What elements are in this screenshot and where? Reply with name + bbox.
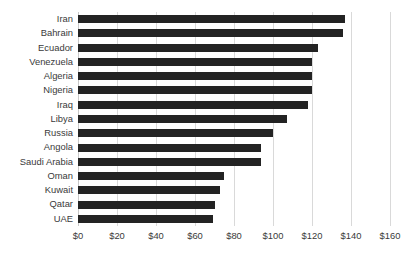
bar-row: Saudi Arabia bbox=[78, 155, 390, 169]
bar-row: Bahrain bbox=[78, 26, 390, 40]
plot-area: IranBahrainEcuadorVenezuelaAlgeriaNigeri… bbox=[78, 12, 390, 226]
bar-angola bbox=[78, 144, 261, 152]
bar-row: Algeria bbox=[78, 69, 390, 83]
bar-row: Iraq bbox=[78, 98, 390, 112]
category-label-ecuador: Ecuador bbox=[38, 41, 73, 55]
bar-iran bbox=[78, 15, 345, 23]
category-label-russia: Russia bbox=[44, 126, 73, 140]
category-label-oman: Oman bbox=[47, 169, 73, 183]
category-label-uae: UAE bbox=[54, 212, 73, 226]
x-axis-tick-labels: $0$20$40$60$80$100$120$140$160 bbox=[78, 230, 390, 246]
bar-row: Nigeria bbox=[78, 83, 390, 97]
bar-ecuador bbox=[78, 44, 318, 52]
bar-rows: IranBahrainEcuadorVenezuelaAlgeriaNigeri… bbox=[78, 12, 390, 226]
category-label-iraq: Iraq bbox=[57, 98, 73, 112]
bar-row: Oman bbox=[78, 169, 390, 183]
x-tick-label: $140 bbox=[341, 230, 362, 241]
x-tick-label: $100 bbox=[263, 230, 284, 241]
category-label-angola: Angola bbox=[44, 140, 73, 154]
x-tick-label: $40 bbox=[148, 230, 164, 241]
bar-row: Qatar bbox=[78, 197, 390, 211]
bar-algeria bbox=[78, 72, 312, 80]
x-tick-label: $20 bbox=[109, 230, 125, 241]
bar-nigeria bbox=[78, 86, 312, 94]
bar-saudi-arabia bbox=[78, 158, 261, 166]
x-tick-label: $0 bbox=[73, 230, 83, 241]
bar-row: Angola bbox=[78, 140, 390, 154]
bar-qatar bbox=[78, 201, 215, 209]
category-label-qatar: Qatar bbox=[50, 197, 73, 211]
category-label-nigeria: Nigeria bbox=[43, 83, 73, 97]
bar-bahrain bbox=[78, 29, 343, 37]
bar-russia bbox=[78, 129, 273, 137]
x-tick-label: $160 bbox=[380, 230, 401, 241]
category-label-algeria: Algeria bbox=[44, 69, 73, 83]
bar-row: Venezuela bbox=[78, 55, 390, 69]
bar-row: UAE bbox=[78, 212, 390, 226]
category-label-kuwait: Kuwait bbox=[45, 183, 73, 197]
category-label-saudi-arabia: Saudi Arabia bbox=[20, 155, 73, 169]
category-label-libya: Libya bbox=[51, 112, 73, 126]
gridline-160 bbox=[390, 12, 391, 226]
bar-row: Libya bbox=[78, 112, 390, 126]
bar-libya bbox=[78, 115, 287, 123]
bar-row: Russia bbox=[78, 126, 390, 140]
category-label-iran: Iran bbox=[57, 12, 73, 26]
bar-chart: IranBahrainEcuadorVenezuelaAlgeriaNigeri… bbox=[0, 0, 417, 260]
bar-iraq bbox=[78, 101, 308, 109]
category-label-bahrain: Bahrain bbox=[41, 26, 73, 40]
x-tick-label: $60 bbox=[187, 230, 203, 241]
x-tick-label: $120 bbox=[302, 230, 323, 241]
bar-kuwait bbox=[78, 186, 220, 194]
bar-oman bbox=[78, 172, 224, 180]
bar-row: Iran bbox=[78, 12, 390, 26]
bar-row: Kuwait bbox=[78, 183, 390, 197]
bar-uae bbox=[78, 215, 213, 223]
category-label-venezuela: Venezuela bbox=[29, 55, 73, 69]
x-tick-label: $80 bbox=[226, 230, 242, 241]
bar-row: Ecuador bbox=[78, 41, 390, 55]
bar-venezuela bbox=[78, 58, 312, 66]
